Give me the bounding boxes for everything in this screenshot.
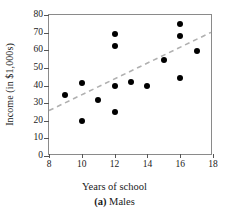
x-axis-title: Years of school — [0, 181, 229, 192]
plot-inner: 01020304050607080 81012141618 — [49, 15, 211, 154]
x-axis-tick-label: 10 — [77, 160, 87, 170]
y-axis-tick-label: 40 — [25, 81, 43, 91]
x-axis-tick-label: 12 — [110, 160, 120, 170]
y-axis-title: Income (in $1,000s) — [2, 14, 16, 155]
y-axis-tick — [44, 33, 49, 34]
data-point — [79, 80, 85, 86]
y-axis-tick-label: 30 — [25, 98, 43, 108]
data-point — [177, 75, 183, 81]
figure-caption: (a) Males — [0, 196, 229, 207]
y-axis-tick — [44, 86, 49, 87]
y-axis-tick-label: 60 — [25, 46, 43, 56]
x-axis-tick-label: 8 — [47, 160, 52, 170]
x-axis-tick — [213, 154, 214, 158]
y-axis-tick — [44, 68, 49, 69]
x-axis-tick — [82, 154, 83, 158]
x-axis-tick-label: 14 — [143, 160, 153, 170]
y-axis-title-label: Income (in $1,000s) — [4, 43, 15, 126]
x-axis-tick — [49, 154, 50, 158]
data-point — [144, 83, 150, 89]
data-point — [112, 43, 118, 49]
x-axis-tick — [147, 154, 148, 158]
data-point — [194, 48, 200, 54]
plot-area: 01020304050607080 81012141618 — [48, 14, 212, 155]
data-point — [112, 109, 118, 115]
y-axis-tick — [44, 121, 49, 122]
data-point — [112, 31, 118, 37]
x-axis-title-label: Years of school — [82, 181, 147, 192]
y-axis-tick — [44, 103, 49, 104]
figure-caption-text: Males — [109, 196, 135, 207]
x-axis-tick — [115, 154, 116, 158]
data-point — [112, 83, 118, 89]
trend-line-segment — [49, 32, 211, 110]
data-point — [79, 118, 85, 124]
x-axis-tick-label: 16 — [175, 160, 185, 170]
scatter-plot-figure: Income (in $1,000s) 01020304050607080 81… — [0, 0, 229, 214]
x-axis-tick-label: 18 — [208, 160, 218, 170]
data-point — [95, 97, 101, 103]
y-axis-tick-label: 0 — [25, 151, 43, 161]
y-axis-tick — [44, 138, 49, 139]
data-point — [177, 21, 183, 27]
data-point — [128, 79, 134, 85]
y-axis-tick-label: 70 — [25, 28, 43, 38]
figure-caption-label: (a) — [94, 196, 106, 207]
data-point — [161, 57, 167, 63]
y-axis-tick-label: 10 — [25, 134, 43, 144]
x-axis-tick — [180, 154, 181, 158]
y-axis-tick-label: 80 — [25, 10, 43, 20]
y-axis-tick — [44, 15, 49, 16]
y-axis-tick-label: 20 — [25, 116, 43, 126]
y-axis-tick — [44, 50, 49, 51]
y-axis-tick-label: 50 — [25, 63, 43, 73]
